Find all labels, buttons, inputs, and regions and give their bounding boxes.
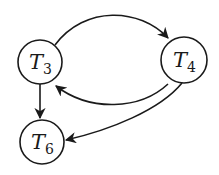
edge-t4-to-t3 [56,84,168,105]
edge-t4-to-t6 [66,83,182,140]
edge-t3-to-t4 [55,15,168,45]
node-t6: T6 [20,120,64,164]
precedence-graph: T3 T4 T6 [0,0,219,175]
node-t3: T3 [18,40,62,84]
node-t4: T4 [161,37,207,83]
